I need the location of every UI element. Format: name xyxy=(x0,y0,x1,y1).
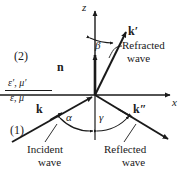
incident-wavevector-label: k xyxy=(36,103,43,115)
reflected-ray-arrow xyxy=(95,95,168,139)
angle-of-reflection-label: γ xyxy=(99,112,103,123)
refracted-wavevector-label: k′ xyxy=(128,25,138,37)
upper-media-constants-label: ε′, μ′ xyxy=(8,78,26,88)
reflected-wave-caption-line1: Reflected xyxy=(104,144,146,155)
angle-beta-arc xyxy=(90,38,113,43)
z-axis-label: z xyxy=(82,2,86,13)
incident-ray-arrow xyxy=(12,97,92,142)
region-2-label: (2) xyxy=(14,50,28,62)
angle-alpha-arc xyxy=(60,118,93,131)
incident-caption-leader xyxy=(45,124,57,142)
reflected-wave-caption-line2: wave xyxy=(122,157,145,168)
angle-of-refraction-label: β xyxy=(95,40,100,51)
refracted-wave-caption-line2: wave xyxy=(127,53,150,64)
reflected-caption-leader xyxy=(124,124,136,142)
x-axis-label: x xyxy=(172,97,177,108)
region-1-label: (1) xyxy=(10,124,24,136)
incident-wave-caption-line2: wave xyxy=(38,157,61,168)
refraction-reflection-diagram: z x (2) (1) ε′, μ′ ε, μ n k′ k k″ α γ β … xyxy=(0,0,185,175)
refracted-wave-caption-line1: Refracted xyxy=(122,40,165,51)
angle-of-incidence-label: α xyxy=(66,112,72,123)
incident-wave-caption-line1: Incident xyxy=(27,144,63,155)
lower-media-constants-label: ε, μ xyxy=(10,93,24,103)
media-constants-divider xyxy=(5,90,52,91)
reflected-wavevector-label: k″ xyxy=(133,103,146,115)
normal-vector-label: n xyxy=(57,61,64,73)
